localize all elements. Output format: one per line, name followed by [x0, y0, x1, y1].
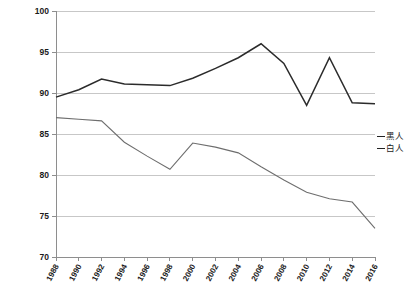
x-tick-label: 1992	[90, 262, 107, 282]
x-tick-label: 1990	[67, 262, 84, 282]
series-line-black	[56, 44, 375, 106]
y-tick-label: 75	[40, 211, 50, 221]
x-tick-label: 2012	[318, 262, 335, 282]
x-tick-label: 1988	[44, 262, 61, 282]
x-tick-label: 2014	[341, 262, 358, 282]
x-tick-label: 2010	[295, 262, 312, 282]
x-axis-tick-labels: 1988199019921994199619982000200220042006…	[44, 262, 380, 282]
y-tick-label: 90	[40, 88, 50, 98]
line-chart: 100959085807570 198819901992199419961998…	[0, 0, 412, 296]
legend-label-white: 白人	[386, 143, 404, 153]
x-axis-tickmarks	[56, 257, 375, 261]
x-tick-label: 1996	[136, 262, 153, 282]
legend-label-black: 黑人	[386, 131, 404, 141]
gridlines-group	[52, 11, 375, 257]
chart-canvas: 100959085807570 198819901992199419961998…	[0, 0, 412, 296]
y-tick-label: 100	[35, 6, 49, 16]
x-tick-label: 1998	[158, 262, 175, 282]
data-series-group	[56, 44, 375, 229]
y-tick-label: 85	[40, 129, 50, 139]
legend-item-white: 白人	[377, 143, 412, 153]
x-tick-label: 2008	[272, 262, 289, 282]
x-tick-label: 2016	[363, 262, 380, 282]
y-tick-label: 95	[40, 47, 50, 57]
legend-swatch-white	[377, 148, 385, 149]
chart-legend: 黑人 白人	[377, 131, 412, 153]
legend-item-black: 黑人	[377, 131, 412, 141]
x-tick-label: 2002	[204, 262, 221, 282]
y-tick-label: 70	[40, 252, 50, 262]
x-tick-label: 2006	[250, 262, 267, 282]
x-tick-label: 1994	[113, 262, 130, 282]
y-axis-tick-labels: 100959085807570	[35, 6, 49, 262]
legend-swatch-black	[377, 136, 385, 137]
y-tick-label: 80	[40, 170, 50, 180]
x-tick-label: 2004	[227, 262, 244, 282]
x-tick-label: 2000	[181, 262, 198, 282]
